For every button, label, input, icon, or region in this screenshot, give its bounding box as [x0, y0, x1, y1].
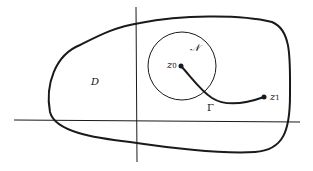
curve-label: Γ: [207, 103, 214, 113]
y-axis: [136, 7, 137, 162]
z1-subscript: 1: [275, 94, 279, 102]
point-z1: [262, 95, 267, 100]
neighborhood-label: 𝒩: [190, 43, 200, 53]
z1-label: z1: [270, 92, 280, 102]
region-label: D: [91, 77, 99, 87]
diagram-canvas: [0, 0, 313, 171]
z0-label: z0: [167, 60, 177, 70]
point-z0: [179, 64, 184, 69]
z0-subscript: 0: [172, 62, 176, 70]
region-boundary: [49, 16, 290, 152]
